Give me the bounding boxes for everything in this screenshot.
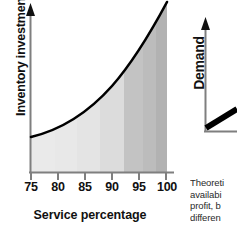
caption-line-2: availabi (190, 189, 237, 201)
x-tick-label-95: 95 (126, 180, 152, 194)
caption-line-4: differen (190, 212, 237, 224)
band-92-95 (124, 0, 143, 172)
band-75-80 (31, 0, 55, 172)
area-fill-bands (31, 0, 168, 172)
figure-panel: Inventory investment 75 80 85 90 95 100 … (0, 0, 237, 233)
x-tick-label-90: 90 (99, 180, 125, 194)
band-85-90 (77, 0, 100, 172)
right-chart-canvas (180, 0, 237, 160)
x-tick-label-75: 75 (18, 180, 44, 194)
caption-text-block: Theoreti availabi profit, b differen (190, 177, 237, 223)
x-tick-label-85: 85 (72, 180, 98, 194)
demand-line (206, 109, 237, 128)
x-axis-tick-labels: 75 80 85 90 95 100 (8, 180, 174, 196)
caption-line-1: Theoreti (190, 177, 237, 189)
caption-line-3: profit, b (190, 200, 237, 212)
band-97-100 (156, 0, 168, 172)
left-chart-y-axis-label: Inventory investment (14, 0, 28, 130)
left-chart-x-axis-label: Service percentage (0, 208, 180, 222)
x-tick-label-80: 80 (45, 180, 71, 194)
right-chart-y-axis-label: Demand (191, 25, 207, 101)
x-tick-label-100: 100 (154, 180, 180, 194)
band-80-85 (55, 0, 77, 172)
demand-chart: Demand (180, 0, 237, 160)
inventory-investment-chart: Inventory investment 75 80 85 90 95 100 … (0, 0, 180, 233)
